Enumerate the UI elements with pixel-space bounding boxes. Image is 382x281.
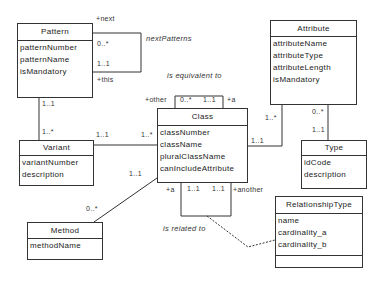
class-name: RelationshipType xyxy=(276,197,362,214)
class-box-relationship-type[interactable]: RelationshipType name cardinality_a card… xyxy=(275,196,363,268)
class-box-attribute[interactable]: Attribute attributeName attributeType at… xyxy=(270,20,357,105)
multiplicity-label: 1..* xyxy=(141,131,153,138)
class-box-type[interactable]: Type idCode description xyxy=(301,140,367,189)
multiplicity-label: 1..1 xyxy=(251,137,264,144)
attribute: attributeLength xyxy=(273,62,356,74)
attribute: classNumber xyxy=(160,127,247,139)
attribute-list: methodName xyxy=(28,239,102,252)
role-label: +next xyxy=(96,15,115,22)
attribute: idCode xyxy=(304,157,366,169)
multiplicity-label: 0..* xyxy=(97,40,109,47)
class-name: Variant xyxy=(20,141,93,156)
attribute: patternNumber xyxy=(20,42,92,54)
role-label: +a xyxy=(227,96,236,103)
class-name: Pattern xyxy=(18,24,92,41)
role-label: +a xyxy=(166,186,175,193)
attribute-list: attributeName attributeType attributeLen… xyxy=(271,37,356,86)
role-label: +this xyxy=(97,76,113,83)
role-label: +another xyxy=(233,186,263,193)
association-name: is equivalent to xyxy=(167,71,222,80)
attribute: attributeName xyxy=(273,38,356,50)
multiplicity-label: 1..* xyxy=(265,114,277,121)
attribute: methodName xyxy=(30,240,102,252)
class-box-class[interactable]: Class classNumber className pluralClassN… xyxy=(157,108,248,183)
association-name: nextPatterns xyxy=(146,34,192,43)
operations-compartment xyxy=(276,255,362,267)
multiplicity-label: 1..1 xyxy=(203,96,216,103)
class-box-variant[interactable]: Variant variantNumber description xyxy=(19,140,94,186)
multiplicity-label: 1..1 xyxy=(187,185,200,192)
attribute: attributeType xyxy=(273,50,356,62)
attribute: cardinality_b xyxy=(278,239,362,251)
attribute: canIncludeAttribute xyxy=(160,163,247,175)
class-name: Method xyxy=(28,223,102,239)
multiplicity-label: 1..1 xyxy=(96,131,109,138)
attribute: description xyxy=(22,169,93,181)
attribute: cardinality_a xyxy=(278,227,362,239)
attribute-list: patternNumber patternName isMandatory xyxy=(18,41,92,78)
attribute-list: idCode description xyxy=(302,156,366,181)
class-name: Class xyxy=(158,109,247,126)
attribute-list: name cardinality_a cardinality_b xyxy=(276,214,362,251)
multiplicity-label: 0..* xyxy=(180,96,192,103)
class-box-method[interactable]: Method methodName xyxy=(27,222,103,260)
multiplicity-label: 1..1 xyxy=(42,100,55,107)
class-name: Attribute xyxy=(271,21,356,37)
class-name: Type xyxy=(302,141,366,156)
attribute: name xyxy=(278,215,362,227)
multiplicity-label: 1..* xyxy=(42,128,54,135)
role-label: +other xyxy=(145,96,167,103)
multiplicity-label: 0..* xyxy=(86,205,98,212)
multiplicity-label: 1..1 xyxy=(312,126,325,133)
multiplicity-label: 1..1 xyxy=(97,60,110,67)
relationship-type-dashed-link xyxy=(207,216,275,247)
attribute-list: classNumber className pluralClassName ca… xyxy=(158,126,247,175)
attribute: patternName xyxy=(20,54,92,66)
attribute-list: variantNumber description xyxy=(20,156,93,181)
attribute: isMandatory xyxy=(20,66,92,78)
class-box-pattern[interactable]: Pattern patternNumber patternName isMand… xyxy=(17,23,93,98)
class-method-line xyxy=(94,178,157,222)
attribute: description xyxy=(304,169,366,181)
multiplicity-label: 1..1 xyxy=(212,185,225,192)
attribute: className xyxy=(160,139,247,151)
multiplicity-label: 1..1 xyxy=(129,170,142,177)
attribute: pluralClassName xyxy=(160,151,247,163)
association-name: is related to xyxy=(163,224,206,233)
multiplicity-label: 0..* xyxy=(312,108,324,115)
attribute: variantNumber xyxy=(22,157,93,169)
attribute: isMandatory xyxy=(273,74,356,86)
